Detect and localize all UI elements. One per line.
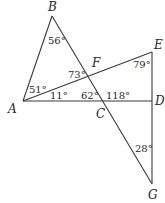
angle-label-a-upper: 51° xyxy=(29,84,47,95)
angle-label-e: 79° xyxy=(133,59,151,70)
point-label-b: B xyxy=(47,0,57,14)
point-label-a: A xyxy=(7,102,17,116)
angle-label-c-right: 118° xyxy=(106,90,130,101)
point-label-c: C xyxy=(96,107,105,121)
point-label-f: F xyxy=(91,56,101,70)
point-label-e: E xyxy=(153,38,163,52)
angle-label-a-lower: 11° xyxy=(50,90,68,101)
angle-label-b: 56° xyxy=(48,35,66,46)
angle-label-g: 28° xyxy=(135,143,153,154)
point-label-g: G xyxy=(148,188,158,202)
geometry-figure: B A C D E F G 56° 51° 11° 73° 62° 118° 7… xyxy=(0,0,165,203)
point-label-d: D xyxy=(154,94,165,108)
angle-label-c-left: 62° xyxy=(81,90,99,101)
angle-label-f: 73° xyxy=(68,69,86,80)
